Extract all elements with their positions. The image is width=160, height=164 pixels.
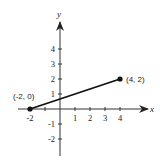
endpoint-marker — [27, 106, 32, 111]
coordinate-plane: -2 1 2 3 4 4 3 2 1 -1 -2 x y (-2, 0) (4,… — [0, 0, 160, 164]
point-label: (4, 2) — [126, 75, 145, 84]
y-tick-label: 1 — [51, 89, 55, 99]
x-axis-label: x — [149, 104, 154, 114]
x-tick-label: -2 — [26, 113, 33, 123]
y-tick-label: 3 — [51, 59, 55, 69]
x-tick-label: 4 — [118, 113, 123, 123]
x-tick-label: 2 — [88, 113, 92, 123]
y-tick-label: 2 — [51, 74, 55, 84]
y-tick-label: -1 — [48, 119, 55, 129]
y-axis-label: y — [56, 9, 61, 19]
endpoint-marker — [117, 76, 122, 81]
y-tick-label: 4 — [51, 44, 56, 54]
point-label: (-2, 0) — [13, 92, 35, 101]
line-segment — [30, 79, 120, 109]
x-tick-label: 1 — [73, 113, 77, 123]
x-tick-label: 3 — [103, 113, 107, 123]
y-tick-label: -2 — [48, 134, 55, 144]
